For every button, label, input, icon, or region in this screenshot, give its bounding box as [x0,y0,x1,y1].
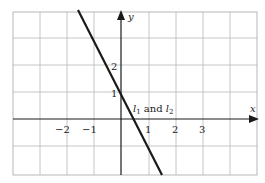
line-annotation: l1 and l2 [133,103,174,116]
x-tick-label: −2 [55,124,70,135]
y-axis-label: y [127,11,134,22]
chart: x y −2 −1 1 2 3 1 2 l1 and l2 [0,0,265,183]
x-tick-label: 2 [172,124,178,135]
y-tick-label: 2 [111,61,117,72]
x-axis-arrow-icon [249,115,259,123]
y-axis-arrow-icon [117,10,125,20]
x-tick-label: 3 [199,124,205,135]
grid [13,12,257,175]
y-tick-label: 1 [111,88,117,99]
x-tick-label: 1 [145,124,151,135]
x-tick-label: −1 [82,124,97,135]
plot-frame [13,12,257,175]
x-axis-label: x [250,103,256,114]
